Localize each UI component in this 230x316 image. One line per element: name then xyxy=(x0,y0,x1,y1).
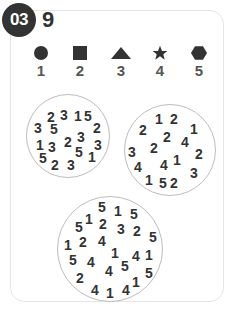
digit: 2 xyxy=(99,217,107,231)
digit: 2 xyxy=(195,147,203,161)
digit: 2 xyxy=(133,224,141,238)
digit: 5 xyxy=(159,176,167,190)
digit: 1 xyxy=(173,153,181,167)
legend-value: 2 xyxy=(65,63,95,79)
digit: 2 xyxy=(170,112,178,126)
digit: 4 xyxy=(87,255,95,269)
digit: 2 xyxy=(150,141,158,155)
digit: 5 xyxy=(39,151,47,165)
digit: 1 xyxy=(132,275,140,289)
digit: 4 xyxy=(132,249,140,263)
digit: 1 xyxy=(85,212,93,226)
legend-item-triangle: 3 xyxy=(106,44,136,79)
digit: 3 xyxy=(77,130,85,144)
digit: 3 xyxy=(128,145,136,159)
digit: 2 xyxy=(170,176,178,190)
digit: 1 xyxy=(88,150,96,164)
star-icon xyxy=(145,44,175,62)
digit: 4 xyxy=(105,264,113,278)
digit: 5 xyxy=(75,145,83,159)
digit: 2 xyxy=(76,271,84,285)
legend-item-hexagon: 5 xyxy=(184,44,214,79)
digit: 3 xyxy=(190,166,198,180)
legend-item-star: 4 xyxy=(145,44,175,79)
digit: 1 xyxy=(74,109,82,123)
digit: 2 xyxy=(51,158,59,172)
square-icon xyxy=(65,44,95,62)
digit: 5 xyxy=(69,253,77,267)
legend-value: 1 xyxy=(26,63,56,79)
digit: 5 xyxy=(75,220,83,234)
digit: 5 xyxy=(98,200,106,214)
digit: 2 xyxy=(79,235,87,249)
digit: 5 xyxy=(121,259,129,273)
digit: 4 xyxy=(134,160,142,174)
digit: 1 xyxy=(106,286,114,300)
digit: 1 xyxy=(145,173,153,187)
digit: 3 xyxy=(60,108,68,122)
target-sum: 9 xyxy=(42,8,54,32)
hexagon-icon xyxy=(184,44,214,62)
digit: 4 xyxy=(98,234,106,248)
digit: 3 xyxy=(34,121,42,135)
digit: 5 xyxy=(130,207,138,221)
digit: 2 xyxy=(139,123,147,137)
legend-item-circle: 1 xyxy=(26,44,56,79)
triangle-icon xyxy=(106,44,136,62)
digit: 3 xyxy=(48,140,56,154)
digit: 4 xyxy=(181,135,189,149)
circle-icon xyxy=(26,44,56,62)
digit: 1 xyxy=(114,204,122,218)
digit: 1 xyxy=(145,248,153,262)
digit: 3 xyxy=(117,222,125,236)
legend-value: 3 xyxy=(106,63,136,79)
legend-value: 5 xyxy=(184,63,214,79)
digit: 1 xyxy=(111,246,119,260)
digit: 5 xyxy=(145,266,153,280)
digit: 2 xyxy=(93,121,101,135)
digit: 3 xyxy=(67,158,75,172)
digit: 1 xyxy=(155,112,163,126)
puzzle-number-badge: 03 xyxy=(2,3,36,37)
digit: 2 xyxy=(163,130,171,144)
digit: 1 xyxy=(64,238,72,252)
digit: 4 xyxy=(160,158,168,172)
digit: 4 xyxy=(122,283,130,297)
digit: 2 xyxy=(64,135,72,149)
digit: 5 xyxy=(84,109,92,123)
digit: 5 xyxy=(50,122,58,136)
legend-item-square: 2 xyxy=(65,44,95,79)
digit: 1 xyxy=(190,122,198,136)
digit: 5 xyxy=(149,230,157,244)
legend-value: 4 xyxy=(145,63,175,79)
digit: 4 xyxy=(91,283,99,297)
